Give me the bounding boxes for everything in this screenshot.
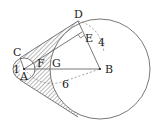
right-angle-marker: [78, 35, 84, 39]
label-1: 1: [13, 63, 20, 76]
label-d: D: [74, 8, 83, 21]
segment-ac: [20, 58, 24, 69]
geometry-diagram: C D E 4 F G 1 A B 6: [0, 0, 156, 125]
label-g: G: [52, 57, 61, 70]
label-4: 4: [98, 36, 105, 49]
label-a: A: [19, 70, 29, 83]
label-b: B: [105, 63, 113, 76]
label-c: C: [13, 46, 21, 59]
label-e: E: [85, 32, 93, 45]
point-b: [99, 68, 101, 70]
label-6: 6: [62, 78, 69, 91]
segment-db: [78, 21, 100, 69]
label-f: F: [37, 57, 45, 70]
